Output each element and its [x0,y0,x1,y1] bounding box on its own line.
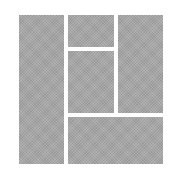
tile-bottom-wide [68,117,163,164]
tile-left-tall [19,15,64,164]
tile-right-tall [118,15,163,113]
tile-middle [68,51,114,113]
tile-top-middle [68,15,114,47]
